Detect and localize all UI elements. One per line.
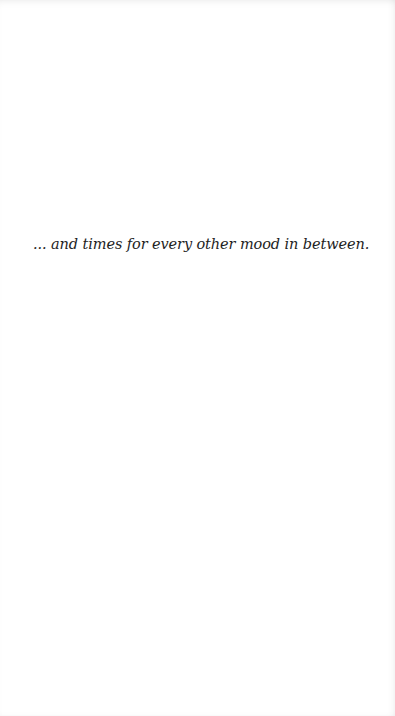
- page-text: ... and times for every other mood in be…: [33, 234, 373, 254]
- book-page: ... and times for every other mood in be…: [0, 0, 395, 716]
